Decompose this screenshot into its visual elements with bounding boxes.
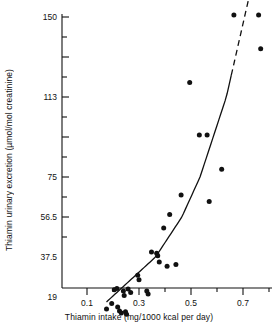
data-point	[155, 253, 160, 258]
x-tick-label-0-1: 0.1	[81, 298, 93, 308]
y-tick-label-56-5: 56.5	[40, 212, 57, 222]
data-point	[109, 301, 114, 306]
data-point	[219, 167, 224, 172]
data-point	[197, 133, 202, 138]
data-point	[205, 133, 210, 138]
x-tick-label-0-5: 0.5	[185, 298, 197, 308]
y-axis-ticks	[62, 17, 69, 237]
x-tick-label-0-3: 0.3	[133, 298, 145, 308]
data-point	[114, 286, 119, 291]
data-point	[179, 193, 184, 198]
data-points	[104, 13, 263, 317]
data-point	[149, 249, 154, 254]
chart-figure: 150 113 75 56.5 37.5 19 0.1 0.3 0.5 0.7	[0, 0, 278, 333]
data-point	[122, 293, 127, 298]
data-point	[146, 291, 151, 296]
data-point	[121, 289, 126, 294]
data-point	[157, 259, 162, 264]
y-tick-label-113: 113	[43, 92, 57, 102]
data-point	[135, 273, 140, 278]
data-point	[256, 13, 261, 18]
y-tick-label-150: 150	[43, 12, 57, 22]
data-point	[137, 277, 142, 282]
data-point	[187, 80, 192, 85]
y-tick-label-37-5: 37.5	[40, 252, 57, 262]
x-axis-title: Thiamin intake (mg/1000 kcal per day)	[0, 312, 278, 322]
data-point	[173, 262, 178, 267]
axes	[62, 14, 272, 288]
x-tick-label-0-7: 0.7	[237, 298, 249, 308]
fit-curve-dashed	[231, 0, 262, 75]
data-point	[231, 13, 236, 18]
data-point	[167, 212, 172, 217]
data-point	[165, 264, 170, 269]
y-axis-title: Thiamin urinary excretion (µmol/mol crea…	[2, 40, 16, 280]
data-point	[104, 306, 109, 311]
data-point	[258, 46, 263, 51]
y-tick-label-75: 75	[48, 172, 58, 182]
scatter-plot: 150 113 75 56.5 37.5 19 0.1 0.3 0.5 0.7	[0, 0, 278, 333]
data-point	[161, 225, 166, 230]
y-axis-tick-labels: 150 113 75 56.5 37.5 19	[40, 12, 57, 302]
data-point	[207, 199, 212, 204]
y-tick-label-19: 19	[48, 292, 58, 302]
data-point	[128, 290, 133, 295]
